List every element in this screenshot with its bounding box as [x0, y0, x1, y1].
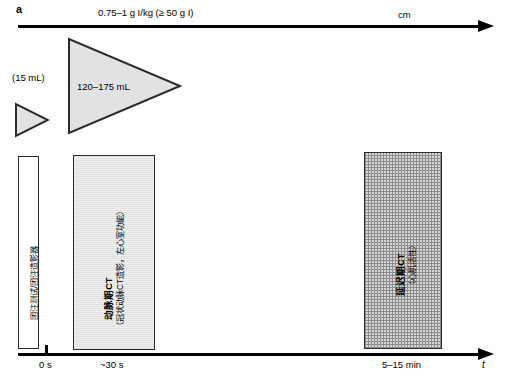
phase-label-test-bolus: 团注测试/团注造影器 — [31, 246, 40, 320]
iodine-dose-label: 0.75–1 g I/kg (≥ 50 g I) — [98, 7, 194, 18]
time-tick-label-5-15min: 5–15 min — [382, 359, 421, 370]
time-axis-line — [18, 353, 480, 356]
time-tick-label-30s: ~30 s — [100, 359, 124, 370]
phase-label-delayed-sub: （心肌活性） — [409, 241, 418, 289]
test-bolus-triangle — [14, 102, 50, 138]
injection-axis-line — [18, 25, 480, 28]
triangle-right-icon — [14, 102, 50, 138]
panel-label: a — [16, 4, 22, 15]
time-tick-label-0s: 0 s — [39, 359, 52, 370]
main-bolus-volume-label: 120–175 mL — [77, 81, 130, 92]
arrow-right-icon — [478, 20, 494, 32]
arrow-right-icon — [478, 348, 494, 360]
time-axis-symbol: t — [482, 359, 485, 370]
contrast-injection-protocol-figure: a 0.75–1 g I/kg (≥ 50 g I) cm (15 mL) 12… — [0, 0, 512, 386]
phase-bar-arterial — [73, 155, 155, 350]
phase-label-arterial-main: 动脉期CT — [104, 277, 114, 320]
phase-label-arterial-sub: （冠状动脉CT造影，左心室功能） — [117, 207, 126, 330]
phase-bar-delayed — [364, 152, 442, 349]
unit-label: cm — [398, 9, 411, 20]
time-tick-mark-zero — [45, 345, 48, 354]
test-bolus-volume-label: (15 mL) — [12, 72, 45, 83]
phase-label-delayed-main: 延迟期CT — [396, 253, 406, 296]
